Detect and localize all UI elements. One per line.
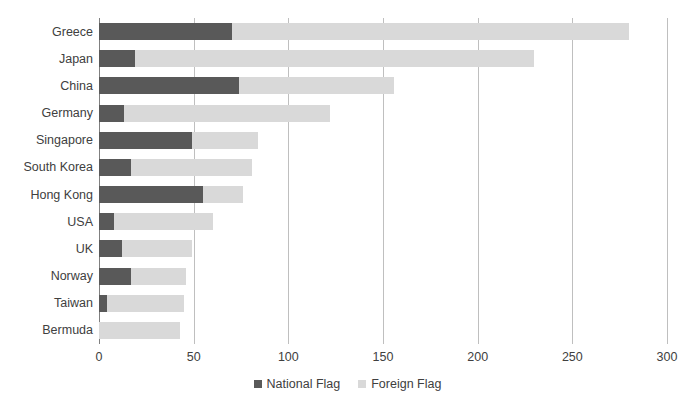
- bar-segment-foreign-flag[interactable]: [114, 213, 212, 230]
- bar-segment-national-flag[interactable]: [99, 159, 131, 176]
- bar-segment-national-flag[interactable]: [99, 213, 114, 230]
- bar-segment-foreign-flag[interactable]: [203, 186, 243, 203]
- category-label: Bermuda: [0, 323, 93, 337]
- category-label: South Korea: [0, 160, 93, 174]
- category-label: UK: [0, 242, 93, 256]
- category-label: Hong Kong: [0, 188, 93, 202]
- national-flag-swatch-icon: [254, 380, 262, 388]
- bar-row[interactable]: [99, 186, 667, 203]
- category-label: USA: [0, 215, 93, 229]
- x-tick-label: 0: [96, 350, 103, 364]
- bar-segment-foreign-flag[interactable]: [135, 50, 534, 67]
- x-tick-label: 250: [562, 350, 583, 364]
- bar-segment-foreign-flag[interactable]: [124, 105, 330, 122]
- category-label: Taiwan: [0, 296, 93, 310]
- bar-row[interactable]: [99, 268, 667, 285]
- category-label: Greece: [0, 25, 93, 39]
- gridline-300: [667, 18, 668, 344]
- bar-segment-national-flag[interactable]: [99, 23, 232, 40]
- bar-segment-national-flag[interactable]: [99, 268, 131, 285]
- x-tick-label: 200: [467, 350, 488, 364]
- bar-segment-foreign-flag[interactable]: [232, 23, 630, 40]
- category-label: Japan: [0, 52, 93, 66]
- bar-segment-foreign-flag[interactable]: [131, 268, 186, 285]
- bar-segment-foreign-flag[interactable]: [239, 77, 394, 94]
- category-label: Singapore: [0, 133, 93, 147]
- bar-segment-national-flag[interactable]: [99, 240, 122, 257]
- bar-rows: [99, 18, 667, 344]
- bar-segment-national-flag[interactable]: [99, 132, 192, 149]
- bar-segment-national-flag[interactable]: [99, 50, 135, 67]
- bar-row[interactable]: [99, 50, 667, 67]
- legend-label: National Flag: [267, 377, 341, 391]
- bar-segment-national-flag[interactable]: [99, 186, 203, 203]
- legend-label: Foreign Flag: [371, 377, 441, 391]
- bar-row[interactable]: [99, 132, 667, 149]
- x-axis-ticks: 050100150200250300: [99, 344, 667, 366]
- foreign-flag-swatch-icon: [358, 380, 366, 388]
- bar-segment-foreign-flag[interactable]: [192, 132, 258, 149]
- category-label: Germany: [0, 106, 93, 120]
- bar-row[interactable]: [99, 213, 667, 230]
- bar-segment-foreign-flag[interactable]: [122, 240, 192, 257]
- bar-segment-national-flag[interactable]: [99, 295, 107, 312]
- bar-row[interactable]: [99, 105, 667, 122]
- bar-row[interactable]: [99, 295, 667, 312]
- bar-row[interactable]: [99, 322, 667, 339]
- bar-row[interactable]: [99, 240, 667, 257]
- bar-segment-foreign-flag[interactable]: [99, 322, 180, 339]
- legend-item[interactable]: National Flag: [254, 377, 341, 391]
- category-label: China: [0, 79, 93, 93]
- x-tick-label: 300: [657, 350, 678, 364]
- legend-item[interactable]: Foreign Flag: [358, 377, 441, 391]
- chart-legend: National FlagForeign Flag: [0, 377, 695, 391]
- x-tick-label: 50: [187, 350, 201, 364]
- bar-row[interactable]: [99, 159, 667, 176]
- plot-area: [99, 18, 667, 344]
- stacked-bar-chart: GreeceJapanChinaGermanySingaporeSouth Ko…: [0, 0, 695, 413]
- category-label: Norway: [0, 269, 93, 283]
- bar-segment-foreign-flag[interactable]: [131, 159, 252, 176]
- bar-segment-national-flag[interactable]: [99, 105, 124, 122]
- x-tick-label: 100: [278, 350, 299, 364]
- x-tick-label: 150: [373, 350, 394, 364]
- bar-segment-national-flag[interactable]: [99, 77, 239, 94]
- bar-segment-foreign-flag[interactable]: [107, 295, 185, 312]
- category-axis: GreeceJapanChinaGermanySingaporeSouth Ko…: [0, 18, 93, 344]
- bar-row[interactable]: [99, 77, 667, 94]
- bar-row[interactable]: [99, 23, 667, 40]
